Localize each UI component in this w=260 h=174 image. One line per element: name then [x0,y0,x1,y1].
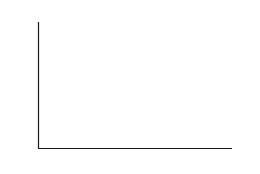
chart-figure [0,0,260,174]
axes-group [38,22,232,149]
mesh-area-plot [0,0,260,174]
